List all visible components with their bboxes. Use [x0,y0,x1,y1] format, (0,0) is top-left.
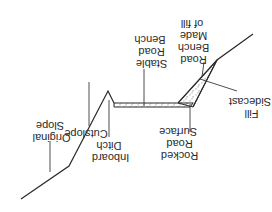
label-sidecast-fill: Fill Sidecast [229,96,271,120]
label-rocked-road-surface: Rocked Road Surface [158,126,198,162]
label-road-bench-made-of-fill: Road Bench Made of fill [175,18,209,66]
sidecast-fill-leader [200,79,237,91]
label-inboard-ditch: Inboard Ditch [89,140,129,164]
diagram-canvas: Original Slope Cutslope Inboard Ditch St… [0,0,272,212]
label-cutslope: Cutslope [64,128,107,140]
road-cross-section-diagram: Original Slope Cutslope Inboard Ditch St… [0,0,272,212]
label-stable-road-bench: Stable Road Bench [133,34,167,70]
